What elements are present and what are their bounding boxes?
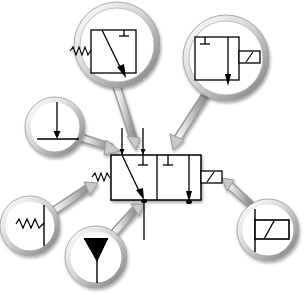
handle-top-right bbox=[170, 96, 205, 150]
magnifier-pressure-port bbox=[25, 97, 85, 157]
diagram-svg bbox=[0, 0, 304, 295]
magnifier-valve-spring-position bbox=[70, 2, 160, 88]
handle-right bbox=[222, 178, 250, 204]
solenoid-coil-icon bbox=[255, 220, 289, 239]
magnifier-spring-return bbox=[0, 196, 60, 256]
magnifier-solenoid bbox=[237, 199, 299, 261]
handle-left bbox=[82, 138, 120, 155]
handle-top-left bbox=[117, 87, 140, 150]
handle-bottom bbox=[115, 204, 144, 232]
magnifier-valve-solenoid-position bbox=[183, 15, 269, 101]
spring-icon bbox=[92, 173, 110, 181]
magnifier-exhaust-port bbox=[65, 226, 127, 288]
diagram-canvas: 3/2-way solenoid valve symbol with magni… bbox=[0, 0, 304, 295]
solenoid-icon bbox=[201, 171, 222, 183]
handle-bottom-left bbox=[55, 182, 98, 210]
